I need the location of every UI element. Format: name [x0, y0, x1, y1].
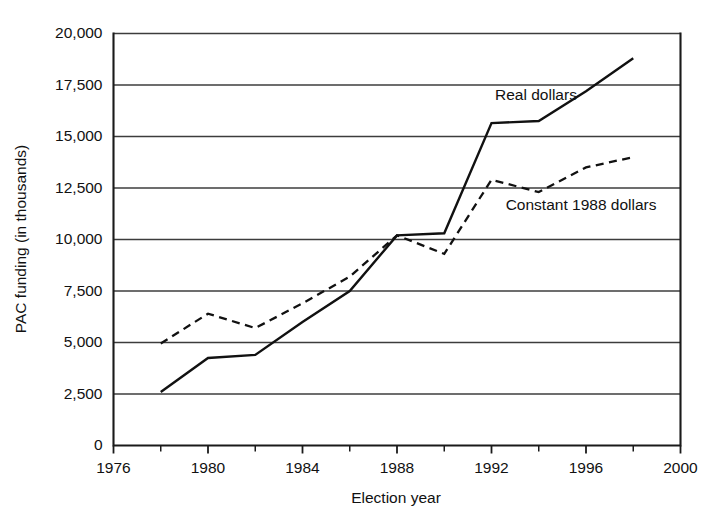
gridlines — [114, 34, 681, 395]
y-tick-label-5000: 5,000 — [64, 333, 103, 350]
y-axis-title: PAC funding (in thousands) — [12, 145, 29, 333]
y-tick-label-20000: 20,000 — [55, 24, 103, 41]
y-tick-label-7500: 7,500 — [64, 282, 103, 299]
series-annotations: Real dollarsConstant 1988 dollars — [495, 86, 657, 212]
y-tick-label-2500: 2,500 — [64, 385, 103, 402]
y-tick-label-0: 0 — [94, 436, 103, 453]
x-tick-label-1992: 1992 — [474, 459, 508, 476]
y-tick-label-17500: 17,500 — [55, 76, 103, 93]
x-tick-label-1976: 1976 — [96, 459, 130, 476]
series-label-1: Constant 1988 dollars — [506, 196, 657, 213]
x-tick-label-1984: 1984 — [285, 459, 320, 476]
y-tick-label-12500: 12,500 — [55, 179, 103, 196]
x-tick-label-1996: 1996 — [569, 459, 603, 476]
x-tick-label-2000: 2000 — [663, 459, 698, 476]
pac-funding-line-chart: 02,5005,0007,50010,00012,50015,00017,500… — [0, 0, 714, 523]
y-tick-label-15000: 15,000 — [55, 127, 103, 144]
y-tick-label-10000: 10,000 — [55, 230, 103, 247]
x-tick-label-1980: 1980 — [191, 459, 226, 476]
series-label-0: Real dollars — [495, 86, 577, 103]
chart-container: 02,5005,0007,50010,00012,50015,00017,500… — [0, 0, 714, 523]
x-tick-label-1988: 1988 — [380, 459, 414, 476]
y-tick-labels: 02,5005,0007,50010,00012,50015,00017,500… — [55, 24, 103, 453]
x-axis-ticks — [114, 446, 681, 454]
series-line-1 — [161, 157, 634, 343]
x-tick-labels: 1976198019841988199219962000 — [96, 459, 698, 476]
x-axis-title: Election year — [351, 489, 441, 506]
